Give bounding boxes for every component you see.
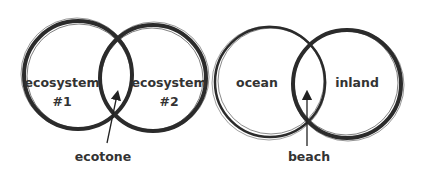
inland-label: inland: [335, 75, 379, 90]
ecosystem-1-number: #1: [52, 94, 71, 109]
ecosystem-2-number: #2: [159, 94, 178, 109]
ocean-label: ocean: [236, 75, 278, 90]
ecosystem-2-label: ecosystem: [132, 75, 207, 90]
ecosystem-1-circle: [21, 18, 133, 130]
beach-label: beach: [288, 149, 330, 164]
ecotone-label: ecotone: [75, 149, 131, 164]
ecotone-diagram: ecosystem #1 ecosystem #2 ecotone ocean …: [0, 0, 421, 171]
ecosystem-1-label: ecosystem: [25, 75, 100, 90]
